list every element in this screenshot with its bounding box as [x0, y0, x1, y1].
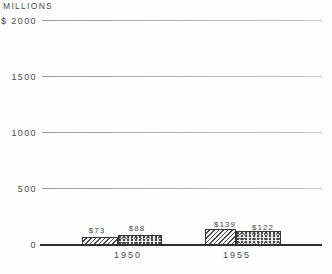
x-tick-label-1950: 1950 [114, 250, 142, 260]
y-tick-label-500: 500 [0, 184, 37, 194]
y-tick-label-1500: 1500 [0, 72, 37, 82]
y-axis-unit-label: MILLIONS [3, 1, 53, 11]
bar-stippled-1950 [118, 235, 162, 245]
y-tick-label-1000: 1000 [0, 128, 37, 138]
gridline-2000 [42, 20, 322, 21]
bar-value-label-73: $73 [89, 226, 105, 235]
y-tick-label-0: 0 [0, 240, 37, 250]
bar-value-label-88: $88 [129, 224, 145, 233]
gridline-500 [42, 188, 322, 189]
bar-chart-figure: MILLIONS $ 2000 1500 1000 500 0 $73 $88 … [0, 0, 332, 274]
bar-stippled-1955 [236, 231, 281, 245]
gridline-1500 [42, 76, 322, 77]
gridline-1000 [42, 132, 322, 133]
bar-value-label-139: $139 [214, 220, 236, 229]
bar-value-label-122: $122 [252, 223, 274, 232]
y-tick-label-2000: $ 2000 [0, 16, 37, 26]
bar-hatched-1955 [205, 229, 236, 245]
bar-hatched-1950 [82, 237, 118, 245]
x-tick-label-1955: 1955 [223, 250, 251, 260]
